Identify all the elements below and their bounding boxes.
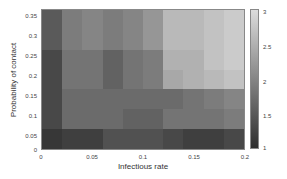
x-tick-label: 0.05 — [86, 154, 98, 160]
heatmap-cell — [204, 109, 224, 129]
heatmap-cell — [62, 109, 82, 129]
colorbar-tick-label: 3 — [263, 9, 266, 15]
heatmap-cell — [82, 89, 102, 109]
heatmap-cell — [42, 89, 62, 109]
heatmap-cell — [82, 129, 102, 149]
heatmap-cell — [224, 10, 244, 30]
heatmap-cell — [103, 70, 123, 90]
heatmap-cell — [143, 89, 163, 109]
heatmap-cell — [163, 70, 183, 90]
x-tick-label: 0.1 — [139, 154, 147, 160]
heatmap-cell — [163, 129, 183, 149]
heatmap-cell — [42, 10, 62, 30]
heatmap-cell — [62, 89, 82, 109]
heatmap-cell — [204, 30, 224, 50]
y-tick-label: 0.2 — [0, 73, 37, 79]
heatmap-cell — [42, 50, 62, 70]
heatmap-cell — [103, 30, 123, 50]
heatmap-cell — [123, 50, 143, 70]
colorbar — [250, 9, 259, 149]
heatmap-cell — [62, 50, 82, 70]
colorbar-tick-label: 1.5 — [263, 113, 271, 119]
heatmap-cell — [123, 30, 143, 50]
x-tick-label: 0.15 — [188, 154, 200, 160]
heatmap-cell — [82, 70, 102, 90]
heatmap-cell — [143, 70, 163, 90]
colorbar-tick-label: 2.5 — [263, 44, 271, 50]
heatmap-cell — [204, 70, 224, 90]
heatmap-cell — [42, 70, 62, 90]
heatmap-cell — [123, 89, 143, 109]
colorbar-tick-label: 2 — [263, 79, 266, 85]
x-tick-label: 0.2 — [241, 154, 249, 160]
heatmap-cell — [163, 10, 183, 30]
heatmap-cell — [183, 89, 203, 109]
heatmap-plot-area — [41, 9, 245, 150]
heatmap-cell — [103, 129, 123, 149]
y-tick-label: 0.35 — [0, 13, 37, 19]
heatmap-cell — [224, 129, 244, 149]
heatmap-cell — [143, 50, 163, 70]
heatmap-cell — [82, 109, 102, 129]
x-axis-label: Infectious rate — [118, 162, 168, 171]
heatmap-cell — [183, 30, 203, 50]
heatmap-cell — [123, 129, 143, 149]
heatmap-cell — [143, 10, 163, 30]
heatmap-cell — [163, 109, 183, 129]
heatmap-cell — [42, 129, 62, 149]
y-tick-label: 0.1 — [0, 113, 37, 119]
y-tick-label: 0.25 — [0, 53, 37, 59]
heatmap-cell — [82, 10, 102, 30]
heatmap-cell — [224, 50, 244, 70]
heatmap-cell — [62, 129, 82, 149]
heatmap-cell — [183, 70, 203, 90]
heatmap-cell — [62, 70, 82, 90]
heatmap-cell — [62, 10, 82, 30]
heatmap-cell — [82, 30, 102, 50]
heatmap-cell — [224, 89, 244, 109]
heatmap-cell — [143, 30, 163, 50]
heatmap-cell — [123, 70, 143, 90]
y-tick-label: 0.15 — [0, 93, 37, 99]
heatmap-cell — [62, 30, 82, 50]
heatmap-cell — [204, 10, 224, 30]
x-tick-label: 0 — [39, 154, 42, 160]
heatmap-cell — [143, 129, 163, 149]
y-tick-label: 0 — [0, 147, 37, 153]
heatmap-cell — [183, 109, 203, 129]
heatmap-cell — [103, 109, 123, 129]
y-axis-label: Probability of contact — [9, 43, 18, 117]
heatmap-cell — [204, 50, 224, 70]
heatmap-cell — [204, 89, 224, 109]
heatmap-cell — [123, 109, 143, 129]
heatmap-cell — [183, 50, 203, 70]
heatmap-cell — [163, 50, 183, 70]
heatmap-cell — [163, 30, 183, 50]
y-tick-label: 0.05 — [0, 133, 37, 139]
heatmap-cell — [224, 109, 244, 129]
colorbar-tick-label: 1 — [263, 145, 266, 151]
heatmap-cell — [103, 50, 123, 70]
heatmap-cell — [204, 129, 224, 149]
heatmap-cell — [163, 89, 183, 109]
heatmap-cell — [42, 30, 62, 50]
heatmap-cell — [183, 129, 203, 149]
heatmap-cell — [183, 10, 203, 30]
heatmap-cell — [103, 10, 123, 30]
heatmap-cell — [82, 50, 102, 70]
y-tick-label: 0.3 — [0, 33, 37, 39]
heatmap-cell — [103, 89, 123, 109]
heatmap-cell — [224, 30, 244, 50]
heatmap-cell — [143, 109, 163, 129]
heatmap-cell — [42, 109, 62, 129]
heatmap-cell — [224, 70, 244, 90]
heatmap-cell — [123, 10, 143, 30]
